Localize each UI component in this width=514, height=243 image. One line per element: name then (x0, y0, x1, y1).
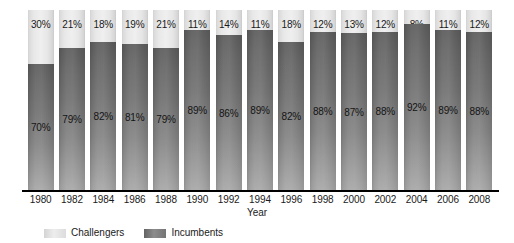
bar-label-challengers-2008: 12% (466, 19, 492, 30)
bar-segment-challengers-2008[interactable]: 12% (466, 10, 492, 32)
bar-label-challengers-1986: 19% (122, 19, 148, 30)
bar-1990[interactable]: 11%89% (184, 10, 210, 190)
bar-1980[interactable]: 30%70% (28, 10, 54, 190)
bar-segment-incumbents-1992[interactable]: 86% (216, 35, 242, 190)
x-tick-2002: 2002 (369, 194, 401, 206)
bar-segment-incumbents-1998[interactable]: 88% (310, 32, 336, 190)
bar-label-challengers-1984: 18% (90, 19, 116, 30)
x-tick-1980: 1980 (25, 194, 57, 206)
x-tick-1996: 1996 (275, 194, 307, 206)
bar-label-incumbents-2008: 88% (466, 105, 492, 116)
legend-label-challengers: Challengers (71, 227, 124, 239)
bar-label-challengers-1996: 18% (278, 19, 304, 30)
bar-label-incumbents-2002: 88% (372, 105, 398, 116)
bar-segment-incumbents-1996[interactable]: 82% (278, 42, 304, 190)
bar-2008[interactable]: 12%88% (466, 10, 492, 190)
bar-1982[interactable]: 21%79% (59, 10, 85, 190)
bar-label-challengers-2000: 13% (341, 19, 367, 30)
bar-segment-challengers-2000[interactable]: 13% (341, 10, 367, 33)
bar-label-challengers-1980: 30% (28, 19, 54, 30)
bar-label-challengers-1998: 12% (310, 19, 336, 30)
bar-1998[interactable]: 12%88% (310, 10, 336, 190)
legend-label-incumbents: Incumbents (171, 227, 223, 239)
bar-label-incumbents-1982: 79% (59, 113, 85, 124)
legend-item-challengers[interactable]: Challengers (44, 227, 124, 239)
x-tick-1986: 1986 (119, 194, 151, 206)
bar-label-challengers-2002: 12% (372, 19, 398, 30)
bar-segment-challengers-1980[interactable]: 30% (28, 10, 54, 64)
bar-segment-incumbents-1984[interactable]: 82% (90, 42, 116, 190)
bar-segment-challengers-2002[interactable]: 12% (372, 10, 398, 32)
bar-label-incumbents-1992: 86% (216, 107, 242, 118)
stacked-bar-chart: 30%70%21%79%18%82%19%81%21%79%11%89%14%8… (0, 0, 514, 243)
bar-segment-incumbents-1980[interactable]: 70% (28, 64, 54, 190)
bar-label-incumbents-1988: 79% (153, 113, 179, 124)
legend-swatch-challengers-icon (44, 229, 66, 238)
x-tick-2006: 2006 (432, 194, 464, 206)
bar-segment-challengers-1998[interactable]: 12% (310, 10, 336, 32)
bar-1994[interactable]: 11%89% (247, 10, 273, 190)
x-tick-1994: 1994 (244, 194, 276, 206)
x-tick-1990: 1990 (181, 194, 213, 206)
bar-segment-incumbents-1986[interactable]: 81% (122, 44, 148, 190)
bar-segment-incumbents-1994[interactable]: 89% (247, 30, 273, 190)
bar-label-incumbents-2006: 89% (435, 104, 461, 115)
x-axis-title: Year (0, 207, 514, 219)
x-tick-2000: 2000 (338, 194, 370, 206)
x-tick-1988: 1988 (150, 194, 182, 206)
bar-label-incumbents-2000: 87% (341, 106, 367, 117)
bar-1988[interactable]: 21%79% (153, 10, 179, 190)
bar-segment-incumbents-2000[interactable]: 87% (341, 33, 367, 190)
bar-1984[interactable]: 18%82% (90, 10, 116, 190)
bar-segment-incumbents-2008[interactable]: 88% (466, 32, 492, 190)
bar-label-incumbents-2004: 92% (404, 102, 430, 113)
bar-segment-challengers-2006[interactable]: 11% (435, 10, 461, 30)
x-tick-1992: 1992 (213, 194, 245, 206)
bar-label-challengers-1988: 21% (153, 19, 179, 30)
bar-2004[interactable]: 8%92% (404, 10, 430, 190)
bar-label-challengers-1982: 21% (59, 19, 85, 30)
bar-label-incumbents-1996: 82% (278, 111, 304, 122)
bar-label-incumbents-1998: 88% (310, 105, 336, 116)
bar-1986[interactable]: 19%81% (122, 10, 148, 190)
x-tick-1982: 1982 (56, 194, 88, 206)
legend-item-incumbents[interactable]: Incumbents (144, 227, 223, 239)
x-tick-1998: 1998 (307, 194, 339, 206)
bar-segment-incumbents-1982[interactable]: 79% (59, 48, 85, 190)
bar-label-incumbents-1990: 89% (184, 104, 210, 115)
bar-2002[interactable]: 12%88% (372, 10, 398, 190)
x-tick-2008: 2008 (463, 194, 495, 206)
bar-label-challengers-1992: 14% (216, 19, 242, 30)
bar-2006[interactable]: 11%89% (435, 10, 461, 190)
bar-segment-challengers-1986[interactable]: 19% (122, 10, 148, 44)
bar-segment-challengers-1990[interactable]: 11% (184, 10, 210, 30)
bar-1996[interactable]: 18%82% (278, 10, 304, 190)
x-axis-line (22, 190, 499, 192)
bar-segment-challengers-2004[interactable]: 8% (404, 10, 430, 24)
bar-segment-challengers-1996[interactable]: 18% (278, 10, 304, 42)
bar-2000[interactable]: 13%87% (341, 10, 367, 190)
bar-label-incumbents-1980: 70% (28, 122, 54, 133)
bar-segment-challengers-1988[interactable]: 21% (153, 10, 179, 48)
bar-segment-challengers-1994[interactable]: 11% (247, 10, 273, 30)
bar-label-challengers-1990: 11% (184, 19, 210, 30)
bar-label-incumbents-1984: 82% (90, 111, 116, 122)
bar-segment-incumbents-2002[interactable]: 88% (372, 32, 398, 190)
x-tick-1984: 1984 (87, 194, 119, 206)
bar-segment-incumbents-2006[interactable]: 89% (435, 30, 461, 190)
bar-1992[interactable]: 14%86% (216, 10, 242, 190)
bar-label-challengers-2006: 11% (435, 19, 461, 30)
bar-segment-challengers-1992[interactable]: 14% (216, 10, 242, 35)
bar-segment-incumbents-2004[interactable]: 92% (404, 24, 430, 190)
x-tick-2004: 2004 (401, 194, 433, 206)
bar-label-incumbents-1994: 89% (247, 104, 273, 115)
bar-segment-incumbents-1988[interactable]: 79% (153, 48, 179, 190)
bar-segment-incumbents-1990[interactable]: 89% (184, 30, 210, 190)
bar-label-challengers-1994: 11% (247, 19, 273, 30)
bar-segment-challengers-1984[interactable]: 18% (90, 10, 116, 42)
bar-label-incumbents-1986: 81% (122, 112, 148, 123)
chart-legend: ChallengersIncumbents (44, 227, 237, 239)
plot-area: 30%70%21%79%18%82%19%81%21%79%11%89%14%8… (25, 10, 495, 190)
legend-swatch-incumbents-icon (144, 229, 166, 238)
bar-segment-challengers-1982[interactable]: 21% (59, 10, 85, 48)
